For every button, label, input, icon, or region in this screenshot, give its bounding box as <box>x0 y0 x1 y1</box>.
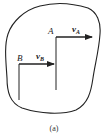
velocity-a-label: vA <box>72 24 80 35</box>
point-a-label: A <box>47 26 54 36</box>
velocity-b-label: vB <box>36 51 44 62</box>
point-b-label: B <box>17 53 23 63</box>
diagram-canvas: A vA B vB (a) <box>0 0 109 138</box>
figure-caption: (a) <box>50 124 59 133</box>
